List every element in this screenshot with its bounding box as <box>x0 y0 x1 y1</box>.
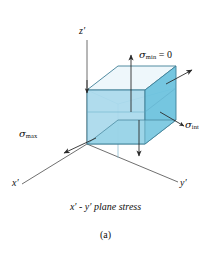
sigma-int-label: σint <box>185 120 199 131</box>
figure-number-label: (a) <box>0 229 211 240</box>
axis-label-x: x′ <box>12 178 19 188</box>
sigma-min-suffix: = 0 <box>156 49 172 60</box>
axis-x-line <box>22 144 87 184</box>
axis-label-y: y′ <box>180 178 187 188</box>
sigma-int-symbol: σ <box>185 119 192 130</box>
sigma-min-label: σmin = 0 <box>139 50 172 61</box>
axis-label-z: z′ <box>79 26 85 36</box>
sigma-int-subscript: int <box>192 123 199 130</box>
sigma-min-subscript: min <box>146 53 156 60</box>
stress-element-figure: z′ x′ y′ σmin = 0 σint σmax x′ - y′ plan… <box>0 0 211 257</box>
figure-caption-text: x′ - y′ plane stress <box>70 201 141 212</box>
sigma-max-label: σmax <box>19 129 37 140</box>
sigma-min-symbol: σ <box>139 49 146 60</box>
figure-caption: x′ - y′ plane stress <box>0 201 211 212</box>
axis-y-line <box>87 144 178 182</box>
sigma-max-subscript: max <box>26 132 38 139</box>
sigma-max-symbol: σ <box>19 128 26 139</box>
